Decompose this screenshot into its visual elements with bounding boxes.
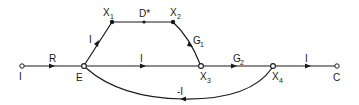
node-x4-sub: 4	[279, 77, 283, 84]
gain-g2-sub: 2	[240, 59, 244, 66]
node-x1	[110, 20, 114, 24]
node-x4-label: X	[272, 71, 279, 82]
node-x2-sub: 2	[177, 13, 181, 20]
gain-e-x1: I	[89, 34, 92, 45]
arrow-g2-icon	[231, 64, 237, 69]
node-e	[82, 64, 87, 69]
arrow-e-x3-icon	[140, 64, 146, 69]
node-c	[335, 64, 339, 68]
gain-g1-sub: 1	[200, 41, 204, 48]
node-c-label: C	[333, 72, 340, 83]
node-e-label: E	[76, 72, 83, 83]
signal-flow-graph: I E X 1 X 2 X 3 X 4 C R I D* G 1 I G 2 I…	[0, 0, 359, 105]
arrow-feedback-icon	[180, 97, 186, 102]
node-x3-sub: 3	[207, 77, 211, 84]
arrow-d-icon	[142, 20, 145, 23]
node-x3-label: X	[200, 71, 207, 82]
node-x2	[171, 20, 175, 24]
gain-e-x3: I	[140, 53, 143, 64]
gain-d: D*	[139, 8, 150, 19]
node-x2-label: X	[170, 7, 177, 18]
gain-r: R	[49, 53, 56, 64]
node-i-label: I	[19, 71, 22, 82]
gain-x4-c: I	[305, 53, 308, 64]
arrow-r-icon	[49, 64, 55, 69]
arrow-x4-c-icon	[305, 64, 311, 69]
node-x1-sub: 1	[110, 13, 114, 20]
node-x3	[199, 64, 204, 69]
node-x4	[271, 64, 276, 69]
gain-feedback: -I	[177, 86, 183, 97]
node-x1-label: X	[103, 7, 110, 18]
node-i	[20, 64, 24, 68]
